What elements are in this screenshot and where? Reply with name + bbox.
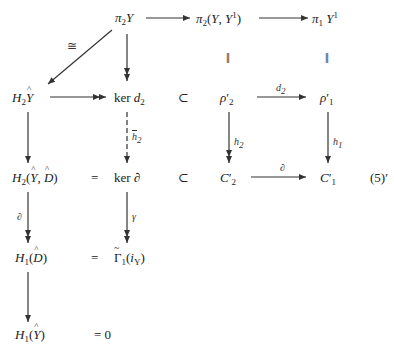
node-H1-Yhat: H1(Y) xyxy=(15,328,45,344)
node-Gamma1-iY: Γ1(iY) xyxy=(114,251,145,267)
commutative-diagram: π2Y π2(Y, Y1) π1 Y1 ≅ ‖ ‖ H2Y ker d2 ⊂ ρ… xyxy=(0,0,394,355)
node-rho1-prime: ρ′1 xyxy=(320,91,334,107)
label-iso: ≅ xyxy=(67,40,77,52)
subset-1: ⊂ xyxy=(178,91,189,104)
node-rho2-prime: ρ′2 xyxy=(220,91,234,107)
subset-2: ⊂ xyxy=(178,171,189,184)
label-del-vertical: ∂ xyxy=(17,212,22,222)
node-pi2-Y-Y1: π2(Y, Y1) xyxy=(196,11,241,28)
label-gamma: γ xyxy=(132,212,136,222)
node-ker-d2: ker d2 xyxy=(114,91,145,107)
node-H1-Dhat: H1(D) xyxy=(15,251,47,267)
label-h1: h1 xyxy=(333,137,343,150)
parallel-mark-2: ‖ xyxy=(325,52,329,66)
equals-zero: = 0 xyxy=(94,328,111,341)
node-pi2-Y: π2Y xyxy=(115,11,133,27)
node-ker-del: ker ∂ xyxy=(114,171,140,184)
equals-1: = xyxy=(91,171,98,184)
label-d2: d2 xyxy=(276,83,286,96)
node-C2-prime: C′2 xyxy=(220,171,236,187)
node-H2-Yhat-Dhat: H2(Y, D) xyxy=(12,171,58,187)
arrow-pi2Y-to-H2Yhat xyxy=(48,30,112,84)
equation-tag: (5)′ xyxy=(370,171,388,184)
equals-2: = xyxy=(91,251,98,264)
node-pi1-Y1: π1 Y1 xyxy=(312,11,338,28)
label-h2: h2 xyxy=(234,137,244,150)
node-H2-Yhat: H2Y xyxy=(12,91,33,107)
parallel-mark-1: ‖ xyxy=(226,52,230,66)
label-del-horizontal: ∂ xyxy=(280,163,285,173)
label-h2bar: h2 xyxy=(132,132,142,145)
node-C1-prime: C′1 xyxy=(320,171,336,187)
